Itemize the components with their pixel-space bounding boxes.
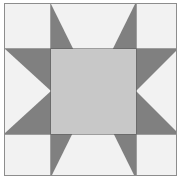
patch-middle-left bbox=[5, 49, 51, 134]
patch-top-left bbox=[5, 4, 51, 49]
star-point-triangle-left bbox=[136, 49, 177, 133]
patch-bottom-center bbox=[51, 134, 136, 176]
quilt-block-frame bbox=[4, 3, 177, 176]
patch-middle-right bbox=[136, 49, 177, 134]
quilt-block-canvas bbox=[0, 0, 182, 183]
patch-bottom-left bbox=[5, 134, 51, 176]
star-point-triangle-down bbox=[51, 4, 135, 49]
star-point-triangle-right bbox=[5, 49, 51, 133]
star-point-triangle-up bbox=[51, 134, 135, 176]
patch-bottom-right bbox=[136, 134, 177, 176]
patch-top-center bbox=[51, 4, 136, 49]
patch-center-square bbox=[51, 49, 136, 134]
nine-patch-grid bbox=[5, 4, 176, 175]
patch-top-right bbox=[136, 4, 177, 49]
